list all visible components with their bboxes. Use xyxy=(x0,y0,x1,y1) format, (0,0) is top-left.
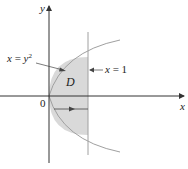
x-axis-label: x xyxy=(179,100,185,112)
region-diagram: y x 0 D x = y2 x = 1 xyxy=(0,0,188,169)
y-axis-label: y xyxy=(39,2,45,14)
region-label: D xyxy=(65,75,75,89)
parabola-equation-label: x = y2 xyxy=(6,52,33,64)
origin-label: 0 xyxy=(40,97,46,109)
line-equation-label: x = 1 xyxy=(104,63,127,75)
line-pointer-arrowhead-icon xyxy=(89,68,94,73)
